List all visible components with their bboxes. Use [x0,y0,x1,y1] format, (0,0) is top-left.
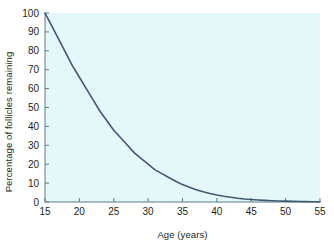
x-axis-title-wrap: Age (years) [45,224,320,242]
chart-figure: 152025303540455055 010203040506070809010… [0,0,334,244]
y-tick-label: 100 [22,8,39,19]
x-tick-label: 35 [177,206,189,217]
x-tick-label: 30 [143,206,155,217]
y-tick-label: 20 [28,159,40,170]
y-tick-label: 70 [28,64,40,75]
x-tick-label: 40 [211,206,223,217]
y-tick-label: 50 [28,102,40,113]
x-axis-tick-labels: 152025303540455055 [39,206,326,217]
follicle-decline-chart: 152025303540455055 010203040506070809010… [0,0,334,244]
x-tick-label: 25 [108,206,120,217]
x-tick-label: 50 [280,206,292,217]
y-tick-label: 30 [28,140,40,151]
x-tick-label: 20 [74,206,86,217]
y-tick-label: 10 [28,178,40,189]
y-tick-label: 90 [28,26,40,37]
x-axis-title: Age (years) [157,229,207,240]
plot-background [45,13,320,202]
x-tick-label: 45 [246,206,258,217]
y-tick-label: 40 [28,121,40,132]
y-tick-label: 0 [33,197,39,208]
x-tick-label: 15 [39,206,51,217]
y-tick-label: 80 [28,45,40,56]
y-axis-tick-labels: 0102030405060708090100 [22,8,39,208]
x-tick-label: 55 [314,206,326,217]
y-tick-label: 60 [28,83,40,94]
